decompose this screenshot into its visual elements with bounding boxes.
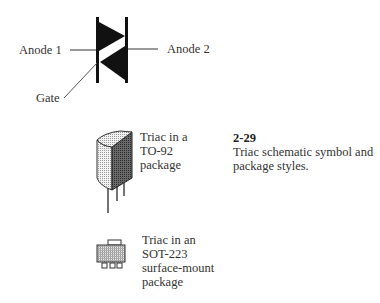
to92-caption: Triac in a TO-92 package [140,130,187,172]
to92-caption-line: TO-92 [140,144,187,158]
sot223-caption: Triac in an SOT-223 surface-mount packag… [142,233,214,289]
triac-symbol [64,17,158,98]
figure-caption: 2-29 Triac schematic symbol and package … [233,131,373,173]
sot223-package-icon [97,240,125,268]
sot223-caption-line: SOT-223 [142,247,214,261]
anode1-label: Anode 1 [19,43,62,57]
right-bar [125,17,128,83]
left-bar [96,17,99,83]
to92-caption-line: package [140,158,187,172]
figure-caption-line: package styles. [233,159,373,173]
figure-caption-line: Triac schematic symbol and [233,145,373,159]
to92-package-icon [97,131,132,213]
to92-caption-line: Triac in a [140,130,187,144]
sot223-caption-line: package [142,275,214,289]
upper-triangle [99,22,125,51]
sot223-caption-line: surface-mount [142,261,214,275]
sot223-caption-line: Triac in an [142,233,214,247]
gate-lead [64,63,97,98]
lower-triangle [100,46,125,80]
figure-number: 2-29 [233,131,373,145]
gate-label: Gate [36,91,60,105]
anode2-label: Anode 2 [167,42,210,56]
